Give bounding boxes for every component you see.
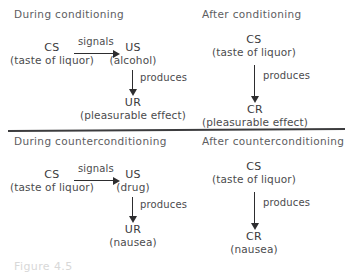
arrow-head	[251, 223, 259, 230]
arrow-shaft	[254, 192, 255, 223]
node-gloss: (pleasurable effect)	[184, 117, 326, 129]
arrow-head	[251, 96, 259, 103]
node-code: CR	[214, 231, 294, 243]
node-ur-bottom-left: UR (nausea)	[96, 224, 170, 249]
panel-title-after-counterconditioning: After counterconditioning	[202, 135, 344, 147]
arrow-us-to-ur-top-left	[128, 70, 137, 96]
node-ur-top-left: UR (pleasurable effect)	[62, 97, 204, 122]
node-code: US	[96, 169, 170, 181]
node-code: UR	[62, 97, 204, 109]
figure-caption: Figure 4.5	[14, 260, 73, 273]
node-code: CR	[184, 104, 326, 116]
node-cr-top-right: CR (pleasurable effect)	[184, 104, 326, 129]
node-cs-bottom-right: CS (taste of liquor)	[210, 161, 298, 186]
arrow-shaft	[132, 197, 133, 216]
arrow-head	[129, 216, 137, 223]
node-gloss: (drug)	[96, 182, 170, 194]
node-gloss: (taste of liquor)	[210, 174, 298, 186]
node-code: US	[96, 42, 170, 54]
edge-label-produces-bottom-left: produces	[140, 199, 187, 210]
arrow-us-to-ur-bottom-left	[128, 197, 137, 223]
node-gloss: (taste of liquor)	[210, 47, 298, 59]
node-us-top-left: US (alcohol)	[96, 42, 170, 67]
node-cs-top-right: CS (taste of liquor)	[210, 34, 298, 59]
edge-label-produces-bottom-right: produces	[263, 197, 310, 208]
arrow-head	[129, 89, 137, 96]
edge-label-produces-top-left: produces	[140, 72, 187, 83]
arrow-shaft	[132, 70, 133, 89]
panel-after-conditioning: After conditioning CS (taste of liquor) …	[196, 8, 358, 126]
arrow-cs-to-cr-top-right	[250, 65, 259, 103]
panel-title-after-conditioning: After conditioning	[202, 8, 302, 20]
arrow-cs-to-cr-bottom-right	[250, 192, 259, 230]
node-gloss: (pleasurable effect)	[62, 110, 204, 122]
panel-title-during-conditioning: During conditioning	[14, 8, 124, 20]
node-us-bottom-left: US (drug)	[96, 169, 170, 194]
node-gloss: (nausea)	[214, 244, 294, 256]
panel-title-during-counterconditioning: During counterconditioning	[14, 135, 167, 147]
node-code: CS	[210, 34, 298, 46]
node-cr-bottom-right: CR (nausea)	[214, 231, 294, 256]
panel-during-counterconditioning: During counterconditioning CS (taste of …	[0, 135, 196, 255]
arrow-shaft	[254, 65, 255, 96]
panel-after-counterconditioning: After counterconditioning CS (taste of l…	[196, 135, 358, 255]
node-gloss: (nausea)	[96, 237, 170, 249]
node-code: CS	[210, 161, 298, 173]
edge-label-produces-top-right: produces	[263, 70, 310, 81]
node-code: UR	[96, 224, 170, 236]
section-divider	[8, 128, 345, 132]
panel-during-conditioning: During conditioning CS (taste of liquor)…	[0, 8, 196, 126]
node-gloss: (alcohol)	[96, 55, 170, 67]
